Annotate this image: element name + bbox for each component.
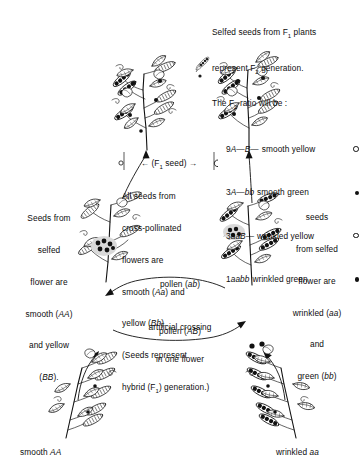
f2-ratio-genotype: 3aaB— bbox=[226, 231, 254, 242]
green-seed-dots bbox=[249, 341, 264, 348]
f2-ratio-genotype: 9A—B— bbox=[226, 144, 259, 155]
f2-ratio-genotype: 3A—bb bbox=[226, 187, 254, 198]
parent-left-line-1: smooth AA bbox=[20, 447, 110, 458]
right-parent-line-1: seeds bbox=[280, 212, 354, 223]
f2-ratio-genotype: 1aabb bbox=[226, 274, 250, 285]
hybrid-description-line-3: flowers are bbox=[122, 255, 218, 266]
right-parent-line-4: wrinkled (aa) bbox=[280, 308, 354, 319]
f1-seed-marker-left bbox=[119, 161, 123, 165]
pollen-ab-label: pollen (ab) bbox=[140, 279, 220, 290]
hybrid-description-line-2: cross-pollinated bbox=[122, 223, 218, 234]
artificial-crossing-label: artificial crossing in one flower bbox=[122, 301, 238, 386]
left-parent-line-4: smooth (AA) bbox=[8, 309, 90, 320]
left-parent-line-2: selfed bbox=[8, 245, 90, 256]
hybrid-description-line-1: All seeds from bbox=[122, 191, 218, 202]
right-parent-line-5: and bbox=[280, 339, 354, 350]
left-parent-description: Seeds from selfed flower are smooth (AA)… bbox=[8, 192, 90, 404]
parent-right-label: wrinkled aa green bb seeds bbox=[276, 426, 359, 466]
pollen-AB-label: pollen (AB) bbox=[140, 326, 220, 337]
left-parent-line-1: Seeds from bbox=[8, 213, 90, 224]
f2-ratio-phenotype: smooth yellow bbox=[262, 144, 350, 155]
parent-right-line-1: wrinkled aa bbox=[276, 447, 359, 458]
f2-plant-left-illustration bbox=[111, 54, 177, 150]
f2-legend-line-3: The F2 ratio will be : bbox=[212, 98, 359, 112]
f2-ratio-marker-open-circle bbox=[350, 145, 359, 156]
f2-ratio-row: 9A—B— smooth yellow bbox=[226, 144, 359, 156]
left-parent-line-3: flower are bbox=[8, 277, 90, 288]
left-parent-line-5: and yellow bbox=[8, 340, 90, 351]
parent-left-label: smooth AA yellow BB seeds bbox=[20, 426, 110, 466]
right-parent-description: seeds from selfed flower are wrinkled (a… bbox=[280, 191, 354, 403]
right-parent-line-3: flower are bbox=[280, 276, 354, 287]
right-parent-line-2: from selfed bbox=[280, 244, 354, 255]
f2-legend-line-2: represent F2 generation. bbox=[212, 63, 359, 77]
f2-legend-line-1: Selfed seeds from F1 plants bbox=[212, 27, 359, 41]
right-parent-line-6: green (bb) bbox=[280, 371, 354, 382]
artificial-crossing-line-2: in one flower bbox=[122, 354, 238, 365]
genetics-diagram: Selfed seeds from F1 plants represent F2… bbox=[0, 0, 359, 466]
left-parent-line-6: (BB). bbox=[8, 372, 90, 383]
legend-sprig-illustration bbox=[194, 56, 210, 78]
seed-cluster-left bbox=[91, 236, 117, 256]
